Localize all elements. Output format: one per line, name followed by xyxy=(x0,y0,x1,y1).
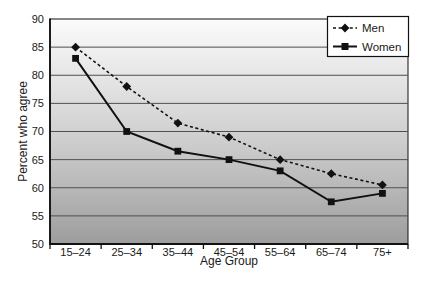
women-data-point xyxy=(226,156,233,163)
x-category-label: 75+ xyxy=(373,246,392,258)
legend: Men Women xyxy=(328,17,409,57)
x-category-label: 15–24 xyxy=(60,246,91,258)
y-tick-label-90: 90 xyxy=(32,13,44,25)
women-data-point xyxy=(277,167,284,174)
women-data-point xyxy=(72,55,79,62)
chart-figure: 505560657075808590 15–2425–3435–4445–545… xyxy=(0,0,434,283)
line-chart: 505560657075808590 15–2425–3435–4445–545… xyxy=(0,0,434,283)
y-tick-label-60: 60 xyxy=(32,182,44,194)
y-tick-label-65: 65 xyxy=(32,154,44,166)
women-data-point xyxy=(379,190,386,197)
legend-women-square-icon xyxy=(342,43,349,50)
y-tick-label-55: 55 xyxy=(32,210,44,222)
x-category-label: 55–64 xyxy=(265,246,296,258)
y-tick-label-85: 85 xyxy=(32,41,44,53)
x-category-label: 65–74 xyxy=(316,246,347,258)
y-tick-label-75: 75 xyxy=(32,97,44,109)
y-tick-label-70: 70 xyxy=(32,125,44,137)
women-data-point xyxy=(328,198,335,205)
y-tick-label-80: 80 xyxy=(32,69,44,81)
legend-women-label: Women xyxy=(362,41,401,53)
women-data-point xyxy=(123,128,130,135)
legend-men-label: Men xyxy=(362,22,384,34)
x-category-label: 25–34 xyxy=(111,246,142,258)
y-axis-tick-labels: 505560657075808590 xyxy=(32,13,44,250)
x-axis-title: Age Group xyxy=(200,254,258,268)
women-data-point xyxy=(174,148,181,155)
y-tick-label-50: 50 xyxy=(32,238,44,250)
y-axis-title: Percent who agree xyxy=(16,81,30,182)
x-category-label: 35–44 xyxy=(163,246,194,258)
